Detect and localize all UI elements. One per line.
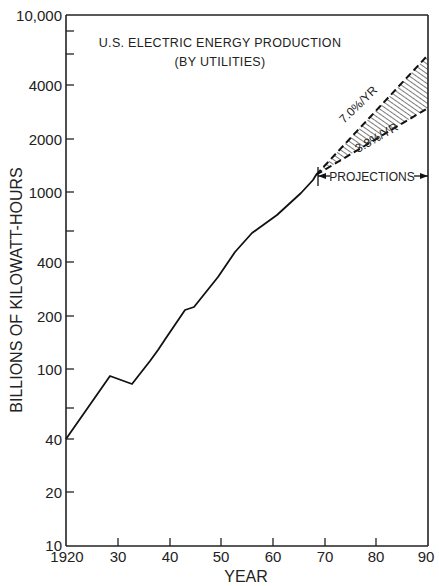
svg-text:30: 30	[110, 548, 127, 565]
chart-title: U.S. ELECTRIC ENERGY PRODUCTION	[99, 36, 341, 50]
x-tick-labels: 1920 30 40 50 60 70 80 90	[50, 548, 434, 565]
svg-text:4000: 4000	[29, 77, 62, 94]
svg-text:200: 200	[37, 308, 62, 325]
y-ticks	[66, 31, 74, 492]
svg-text:90: 90	[418, 548, 435, 565]
chart-subtitle: (BY UTILITIES)	[175, 55, 266, 69]
svg-text:2000: 2000	[29, 131, 62, 148]
y-axis-title: BILLIONS OF KILOWATT-HOURS	[8, 167, 25, 412]
svg-text:40: 40	[162, 548, 179, 565]
svg-text:60: 60	[265, 548, 282, 565]
svg-text:70: 70	[317, 548, 334, 565]
svg-text:400: 400	[37, 254, 62, 271]
svg-text:40: 40	[45, 431, 62, 448]
annotation-projections: PROJECTIONS	[329, 170, 414, 184]
chart: 10 20 40 100 200 400 1000 2000 4000 10,0…	[0, 0, 439, 586]
svg-text:80: 80	[368, 548, 385, 565]
svg-text:50: 50	[213, 548, 230, 565]
projections-bracket: PROJECTIONS	[318, 167, 428, 186]
historical-series-line	[66, 175, 316, 439]
x-ticks	[118, 538, 376, 546]
svg-text:1920: 1920	[50, 548, 83, 565]
svg-text:1000: 1000	[29, 184, 62, 201]
svg-text:100: 100	[37, 361, 62, 378]
svg-text:10,000: 10,000	[16, 7, 62, 24]
x-axis-title: YEAR	[224, 568, 268, 585]
svg-text:20: 20	[45, 484, 62, 501]
